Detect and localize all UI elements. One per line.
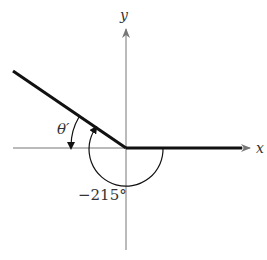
angle-label: −215° <box>78 186 127 204</box>
y-axis-label: y <box>119 7 129 23</box>
reference-angle-label: θ′ <box>57 120 70 138</box>
x-axis-label: x <box>256 140 264 156</box>
terminal-side <box>13 71 126 148</box>
reference-angle-arc <box>71 117 79 146</box>
angle-diagram: y x θ′ −215° <box>0 0 267 260</box>
